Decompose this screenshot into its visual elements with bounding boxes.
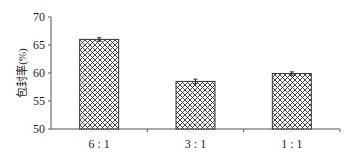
- y-tick-label: 50: [33, 122, 45, 136]
- x-category-label: 3 : 1: [185, 137, 206, 151]
- y-tick-label: 60: [33, 66, 45, 80]
- bar: [80, 39, 119, 129]
- y-tick-label: 65: [33, 38, 45, 52]
- bar: [176, 81, 215, 129]
- bar: [272, 74, 311, 129]
- x-category-label: 6 : 1: [88, 137, 109, 151]
- y-tick-label: 70: [33, 10, 45, 24]
- x-category-label: 1 : 1: [281, 137, 302, 151]
- bars: 6 : 13 : 11 : 1: [80, 38, 312, 151]
- bar-chart: 5055606570 6 : 13 : 11 : 1 包封率(%): [0, 0, 356, 161]
- y-axis-label: 包封率(%): [15, 48, 29, 98]
- y-tick-label: 55: [33, 94, 45, 108]
